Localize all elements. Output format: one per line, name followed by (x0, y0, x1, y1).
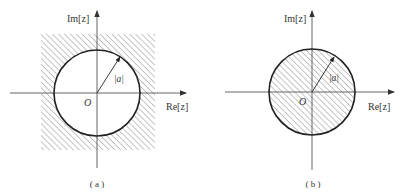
z-plane-figure: Im[z] Re[z] O |a| ( a ) Im[z] Re[z] O |a… (0, 0, 403, 196)
real-axis-label: Re[z] (368, 101, 390, 112)
real-axis-label: Re[z] (166, 101, 188, 112)
panel-a: Im[z] Re[z] O |a| ( a ) (10, 11, 188, 189)
imaginary-axis-label: Im[z] (284, 13, 306, 24)
panel-caption: ( a ) (90, 179, 105, 189)
radius-label: |a| (114, 74, 124, 84)
origin-label: O (299, 96, 306, 107)
radius-label: |a| (329, 73, 339, 83)
origin-label: O (84, 97, 91, 108)
imaginary-axis-label: Im[z] (67, 13, 89, 24)
panel-b: Im[z] Re[z] O |a| ( b ) (225, 11, 394, 189)
panel-caption: ( b ) (306, 179, 321, 189)
